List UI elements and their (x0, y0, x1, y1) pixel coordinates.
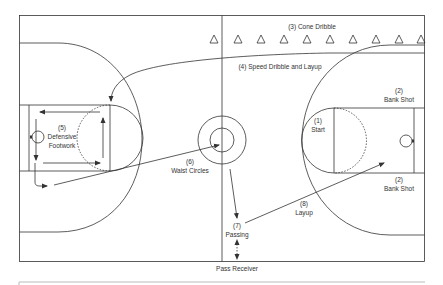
cone-icon (303, 35, 311, 43)
cone-icon (234, 35, 242, 43)
label-layup: Layup (295, 209, 313, 217)
waist-circles-path (54, 145, 219, 185)
right-basket (400, 135, 412, 147)
footwork-arrow-hook (35, 163, 47, 186)
label-defensive-number: (5) (58, 124, 66, 132)
cone-icon (417, 35, 425, 43)
label-bank-shot-lower: Bank Shot (384, 185, 414, 193)
label-passing: Passing (225, 231, 248, 239)
label-cone-dribble: (3) Cone Dribble (288, 23, 336, 31)
left-basket (32, 131, 44, 143)
left-three-point-line (20, 43, 143, 232)
left-free-throw-arc-dashed (77, 105, 110, 171)
speed-dribble-path (111, 53, 425, 101)
cone-icon (326, 35, 334, 43)
right-backboard-mark (412, 140, 414, 143)
label-speed-dribble: (4) Speed Dribble and Layup (238, 63, 321, 71)
left-backboard-mark (30, 136, 32, 139)
left-free-throw-arc (110, 105, 143, 171)
label-bank-shot-lower-number: (2) (395, 176, 403, 184)
right-three-point-line (302, 45, 425, 235)
label-footwork: Footwork (49, 142, 76, 150)
label-defensive: Defensive (48, 133, 77, 141)
right-free-throw-arc-dashed (334, 108, 366, 173)
passing-path (230, 169, 237, 218)
label-start: Start (311, 126, 325, 134)
label-layup-number: (8) (300, 200, 308, 208)
cone-icon (210, 35, 218, 43)
label-waist-circles: Waist Circles (171, 167, 209, 175)
label-bank-shot-upper-number: (2) (395, 87, 403, 95)
cone-icon (280, 35, 288, 43)
label-passing-number: (7) (233, 222, 241, 230)
cone-icon (372, 35, 380, 43)
cone-icon (349, 35, 357, 43)
label-bank-shot-upper: Bank Shot (384, 96, 414, 104)
cone-icon (395, 35, 403, 43)
label-waist-circles-number: (6) (186, 158, 194, 166)
label-pass-receiver: Pass Receiver (216, 265, 258, 273)
cone-icon (257, 35, 265, 43)
label-start-number: (1) (314, 117, 322, 125)
cone-row (210, 35, 425, 43)
layup-path (245, 163, 384, 223)
